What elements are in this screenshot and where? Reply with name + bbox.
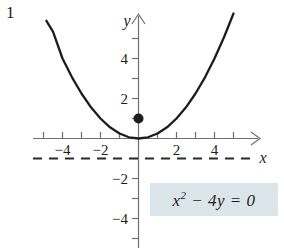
equation-base: x <box>172 190 180 209</box>
y-tick-label-pos4: 4 <box>121 51 129 67</box>
y-tick-label-pos2: 2 <box>121 91 129 107</box>
x-tick-label-neg4: −4 <box>55 142 71 158</box>
focus-point-dot <box>134 114 144 124</box>
x-tick-label-neg2: −2 <box>93 142 109 158</box>
x-axis-label: x <box>258 149 266 166</box>
equation-rest: − 4y = 0 <box>187 190 256 209</box>
x-tick-label-pos2: 2 <box>173 142 181 158</box>
parabola-figure: 1 <box>0 0 284 252</box>
y-axis-label: y <box>121 12 131 30</box>
x-tick-label-pos4: 4 <box>211 142 219 158</box>
equation-callout-box: x2 − 4y = 0 <box>150 183 278 216</box>
y-tick-label-neg4: −4 <box>112 211 128 227</box>
y-tick-label-neg2: −2 <box>112 171 128 187</box>
equation-text: x2 − 4y = 0 <box>172 189 255 211</box>
